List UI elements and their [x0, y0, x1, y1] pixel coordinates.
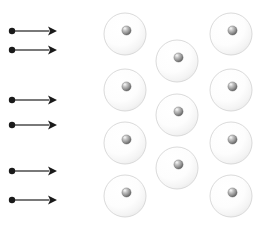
lattice-diagram — [0, 0, 262, 230]
atom-nucleus — [228, 135, 237, 144]
atom-nucleus — [174, 107, 183, 116]
atom — [104, 175, 146, 217]
atom-nucleus — [122, 135, 131, 144]
ray-origin-dot — [9, 197, 15, 203]
ray-origin-dot — [9, 97, 15, 103]
atom — [210, 122, 252, 164]
atom-nucleus — [174, 160, 183, 169]
ray-origin-dot — [9, 47, 15, 53]
atom-nucleus — [228, 82, 237, 91]
atom — [156, 94, 198, 136]
atom — [210, 13, 252, 55]
atom-nucleus — [174, 53, 183, 62]
atom — [210, 69, 252, 111]
atom-nucleus — [122, 188, 131, 197]
atom — [104, 122, 146, 164]
ray-origin-dot — [9, 28, 15, 34]
atom-nucleus — [122, 26, 131, 35]
atom — [104, 69, 146, 111]
ray-origin-dot — [9, 168, 15, 174]
atom — [210, 175, 252, 217]
atom-nucleus — [122, 82, 131, 91]
atom-nucleus — [228, 188, 237, 197]
atom-nucleus — [228, 26, 237, 35]
atom — [156, 147, 198, 189]
ray-origin-dot — [9, 122, 15, 128]
lattice-column — [156, 40, 198, 189]
figure-canvas — [0, 0, 262, 230]
atom — [156, 40, 198, 82]
atom — [104, 13, 146, 55]
